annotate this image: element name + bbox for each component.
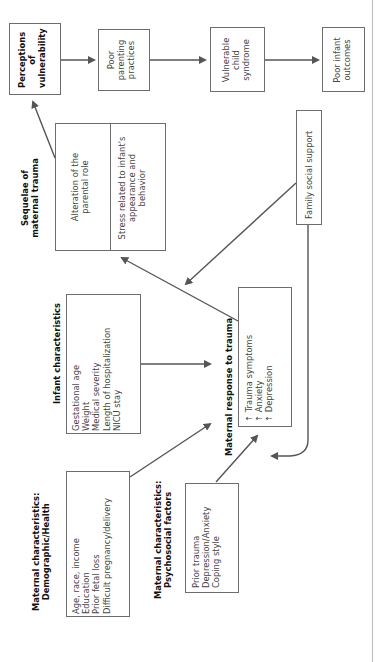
infant-item: Gestational age <box>71 328 81 431</box>
psychosocial-item: Prior trauma <box>191 507 201 588</box>
infant-item: Weight <box>81 328 91 431</box>
node-sequelae-of-maternal-trauma: Alteration of the parental role Stress r… <box>55 123 166 251</box>
infant-item: NICU stay <box>112 328 122 431</box>
psychosocial-item: Depression/Anxiety <box>201 507 211 588</box>
maternal-response-title: Maternal response to trauma <box>224 318 234 456</box>
response-item-text: Anxiety <box>254 381 264 413</box>
response-item-text: Depression <box>264 365 274 412</box>
demographic-title: Maternal characteristics: Demographic/He… <box>31 493 51 611</box>
poor-parenting-line: parenting <box>116 35 126 85</box>
perceptions-line: vulnerability <box>37 32 47 88</box>
demographic-item: Education <box>81 498 91 614</box>
poor-outcomes-line: Poor infant <box>332 34 342 86</box>
node-maternal-psychosocial-factors: Prior trauma Depression/Anxiety Coping s… <box>185 483 239 593</box>
response-item: ↑ Trauma symptoms <box>244 335 254 422</box>
perceptions-line: of <box>27 32 37 88</box>
node-vulnerable-child-syndrome: Vulnerable child syndrome <box>210 27 265 92</box>
sequelae-item-line: Stress related to infant's <box>117 132 127 244</box>
poor-parenting-line: Poor <box>106 35 116 85</box>
vulnerable-child-line: syndrome <box>241 34 251 86</box>
sequelae-title: Sequelae of maternal trauma <box>20 148 40 248</box>
infant-item: Medical severity <box>91 328 101 431</box>
node-infant-characteristics: Gestational age Weight Medical severity … <box>66 294 141 434</box>
sequelae-item-line: Alteration of the <box>70 132 80 242</box>
infant-item: Length of hospitalization <box>102 328 112 431</box>
response-item: ↑ Anxiety <box>254 335 264 422</box>
poor-outcomes-line: outcomes <box>342 34 352 86</box>
node-poor-parenting-practices: Poor parenting practices <box>98 29 150 91</box>
psychosocial-title: Maternal characteristics: Psychosocial f… <box>153 481 173 599</box>
node-poor-infant-outcomes: Poor infant outcomes <box>322 27 365 92</box>
up-arrow-icon: ↑ <box>244 415 254 422</box>
psychosocial-title-line: Psychosocial factors <box>163 481 173 599</box>
psychosocial-item: Coping style <box>211 507 221 588</box>
node-maternal-response-to-trauma: ↑ Trauma symptoms ↑ Anxiety ↑ Depression <box>238 287 292 427</box>
response-item-text: Trauma symptoms <box>244 335 254 412</box>
up-arrow-icon: ↑ <box>254 415 264 422</box>
up-arrow-icon: ↑ <box>264 415 274 422</box>
demographic-item: Age, race, income <box>71 498 81 614</box>
demographic-title-line: Maternal characteristics: <box>31 493 41 611</box>
demographic-title-line: Demographic/Health <box>41 493 51 611</box>
page-edge-line <box>372 0 373 662</box>
vulnerable-child-line: Vulnerable <box>221 34 231 86</box>
node-family-social-support: Family social support <box>296 110 322 225</box>
sequelae-title-line: Sequelae of <box>20 148 30 248</box>
demographic-item: Difficult pregnancy/delivery <box>102 498 112 614</box>
infant-characteristics-title: Infant characteristics <box>52 303 62 404</box>
node-perceptions-of-vulnerability: Perceptions of vulnerability <box>9 23 61 95</box>
sequelae-item-line: appearance and <box>127 132 137 244</box>
poor-parenting-line: practices <box>126 35 136 85</box>
perceptions-line: Perceptions <box>17 32 27 88</box>
response-item: ↑ Depression <box>264 335 274 422</box>
node-maternal-demographic-health: Age, race, income Education Prior fetal … <box>66 471 130 617</box>
family-support-label: Family social support <box>304 131 314 219</box>
vulnerable-child-line: child <box>231 34 241 86</box>
sequelae-divider <box>110 124 111 250</box>
psychosocial-title-line: Maternal characteristics: <box>153 481 163 599</box>
sequelae-item-line: behavior <box>137 132 147 244</box>
demographic-item: Prior fetal loss <box>91 498 101 614</box>
sequelae-item-line: parental role <box>80 132 90 242</box>
sequelae-title-line: maternal trauma <box>30 148 40 248</box>
